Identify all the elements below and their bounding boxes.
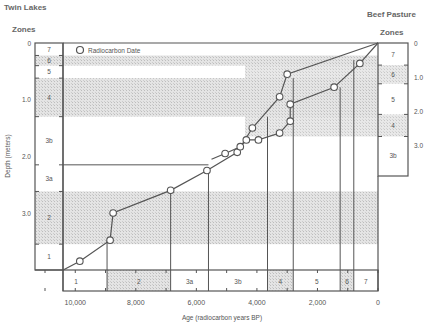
legend-label: Radiocarbon Date bbox=[88, 47, 141, 54]
left-zone-label: 3a bbox=[45, 175, 53, 182]
radiocarbon-date-marker bbox=[276, 94, 283, 101]
radiocarbon-date-marker bbox=[237, 143, 244, 150]
y-left-tick-label: 0 bbox=[27, 40, 31, 47]
right-zone-label: 6 bbox=[391, 71, 395, 78]
age-zone-label: 2 bbox=[137, 278, 141, 285]
left-zone-label: 2 bbox=[47, 214, 51, 221]
radiocarbon-date-marker bbox=[107, 237, 114, 244]
y-left-axis-label: Depth (meters) bbox=[4, 134, 12, 177]
right-zone-label: 5 bbox=[391, 96, 395, 103]
right-zone-label: 3b bbox=[389, 152, 397, 159]
left-zone-label: 7 bbox=[47, 46, 51, 53]
radiocarbon-date-marker bbox=[276, 130, 283, 137]
x-axis-label: Age (radiocarbon years BP) bbox=[182, 314, 262, 322]
radiocarbon-date-marker bbox=[357, 60, 364, 67]
left-zone-label: 5 bbox=[47, 68, 51, 75]
left-zone-band bbox=[35, 78, 378, 117]
radiocarbon-date-marker bbox=[77, 258, 84, 265]
right-zone-band bbox=[245, 65, 408, 84]
x-tick-label: 6,000 bbox=[188, 299, 206, 306]
radiocarbon-date-marker bbox=[249, 125, 256, 132]
x-tick-label: 10,000 bbox=[65, 299, 87, 306]
y-right-tick-label: 1.0 bbox=[414, 74, 423, 81]
right-zone-band bbox=[245, 114, 408, 136]
age-zone-label: 3b bbox=[234, 278, 242, 285]
radiocarbon-date-marker bbox=[284, 71, 291, 78]
radiocarbon-date-marker bbox=[243, 137, 250, 144]
y-left-tick-label: 3.0 bbox=[22, 210, 31, 217]
y-left-tick-label: 1.0 bbox=[22, 96, 31, 103]
left-zone-label: 1 bbox=[47, 253, 51, 260]
left-zone-label: 4 bbox=[47, 94, 51, 101]
y-left-tick-label: 2.0 bbox=[22, 153, 31, 160]
legend-circle-icon bbox=[77, 47, 84, 54]
left-zone-band bbox=[35, 191, 378, 244]
age-zone-label: 6 bbox=[345, 278, 349, 285]
x-tick-label: 4,000 bbox=[248, 299, 266, 306]
y-right-tick-label: 0 bbox=[414, 40, 418, 47]
x-tick-label: 0 bbox=[376, 299, 380, 306]
radiocarbon-date-marker bbox=[287, 101, 294, 108]
age-zone-label: 3a bbox=[186, 278, 194, 285]
pollen-age-depth-chart: 123a3b456710,0008,0006,0004,0002,0000Age… bbox=[0, 0, 431, 327]
right-zone-label: 7 bbox=[391, 51, 395, 58]
radiocarbon-date-marker bbox=[287, 118, 294, 125]
right-zone-label: 4 bbox=[391, 122, 395, 129]
radiocarbon-date-marker bbox=[204, 167, 211, 174]
x-tick-label: 2,000 bbox=[309, 299, 327, 306]
radiocarbon-date-marker bbox=[110, 210, 117, 217]
y-right-tick-label: 2.0 bbox=[414, 108, 423, 115]
left-zone-label: 3b bbox=[45, 137, 53, 144]
radiocarbon-date-marker bbox=[222, 150, 229, 157]
radiocarbon-date-marker bbox=[167, 187, 174, 194]
age-zone-label: 7 bbox=[364, 278, 368, 285]
radiocarbon-date-marker bbox=[255, 137, 262, 144]
y-right-tick-label: 3.0 bbox=[414, 142, 423, 149]
left-zone-label: 6 bbox=[47, 57, 51, 64]
age-zone-label: 1 bbox=[74, 278, 78, 285]
age-zone-label: 4 bbox=[279, 278, 283, 285]
x-tick-label: 8,000 bbox=[127, 299, 145, 306]
age-zone-label: 5 bbox=[315, 278, 319, 285]
radiocarbon-date-marker bbox=[331, 84, 338, 91]
